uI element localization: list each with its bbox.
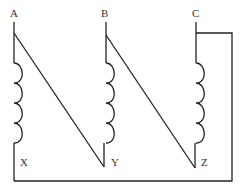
- wire-c-to-x: [14, 33, 232, 181]
- label-z: Z: [201, 156, 208, 168]
- winding-c-z: [195, 22, 204, 168]
- coil-b-icon: [106, 63, 114, 143]
- winding-b-y: [104, 22, 114, 167]
- label-x: X: [20, 156, 28, 168]
- label-a: A: [10, 7, 18, 19]
- winding-diagram: A B C X Y Z: [0, 0, 241, 192]
- label-y: Y: [111, 156, 119, 168]
- coil-c-icon: [196, 63, 204, 143]
- label-c: C: [192, 7, 199, 19]
- wire-b-to-z: [106, 35, 195, 168]
- coil-a-icon: [14, 63, 22, 143]
- wire-a-to-y: [14, 33, 104, 167]
- label-b: B: [101, 7, 108, 19]
